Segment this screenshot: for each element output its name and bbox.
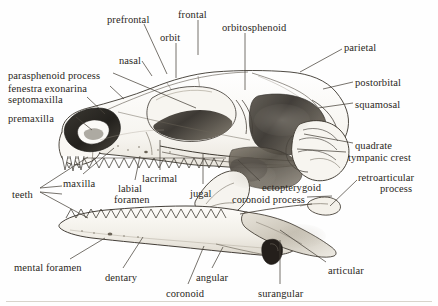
label-nasal: nasal <box>119 55 141 67</box>
labial-foramen <box>144 151 148 153</box>
label-retroarticular: retroarticular <box>358 172 414 184</box>
upper-canines <box>62 156 84 171</box>
label-articular: articular <box>328 265 364 277</box>
label-jugal: jugal <box>190 188 212 200</box>
label-coronoid-process: coronoid process <box>232 194 305 206</box>
label-fenestra-exonarina: fenestra exonarina <box>8 83 87 95</box>
label-lacrimal: lacrimal <box>142 173 177 185</box>
tone-blob-a <box>254 104 310 136</box>
mental-foramen <box>108 233 113 236</box>
label-postorbital: postorbital <box>355 77 401 89</box>
label-prefrontal: prefrontal <box>107 14 149 26</box>
dentary-stipple-b <box>93 232 95 233</box>
leader-mental <box>70 238 105 259</box>
label-dentary: dentary <box>105 272 137 284</box>
label-angular: angular <box>196 272 228 284</box>
label-squamosal: squamosal <box>355 99 400 111</box>
teeth-bracket <box>40 186 62 194</box>
maxilla-stipple-d <box>157 149 159 150</box>
leader-nasal <box>142 61 152 76</box>
maxilla-stipple-a <box>117 145 119 147</box>
label-coronoid: coronoid <box>166 288 204 300</box>
label-mental-foramen: mental foramen <box>14 262 82 274</box>
label-surangular: surangular <box>258 288 303 300</box>
label-orbitosphenoid: orbitosphenoid <box>222 22 286 34</box>
label-premaxilla: premaxilla <box>8 113 54 125</box>
page-rule <box>6 301 432 302</box>
label-tympanic-crest: tympanic crest <box>348 152 411 164</box>
label-teeth: teeth <box>12 189 33 201</box>
label-frontal: frontal <box>178 9 207 21</box>
skull-anatomy-figure: prefrontalfrontalorbitosphenoidorbitpari… <box>0 0 438 306</box>
maxilla-stipple-c <box>138 146 140 148</box>
leader-fenestra <box>110 86 124 99</box>
tone-blob-c <box>274 224 326 248</box>
retroarticular-process <box>308 197 341 215</box>
label-orbit: orbit <box>160 32 180 44</box>
label-septomaxilla: septomaxilla <box>8 94 63 106</box>
label-quadrate: quadrate <box>355 140 392 152</box>
dentary-stipple-c <box>123 235 125 236</box>
label-labial: labial <box>118 183 142 195</box>
maxilla-stipple-e <box>169 151 171 152</box>
label-parietal: parietal <box>344 42 376 54</box>
leader-parietal <box>300 49 342 72</box>
leader-teeth-lower <box>40 192 88 218</box>
dentary-stipple-a <box>81 230 83 231</box>
label-ectopterygoid: ectopterygoid <box>262 182 321 194</box>
skull-group <box>59 71 349 265</box>
label-process: process <box>380 183 412 195</box>
label-foramen: foramen <box>114 194 150 206</box>
dentary-stipple-d <box>137 236 139 237</box>
label-parasphenoid-process: parasphenoid process <box>8 70 100 82</box>
label-maxilla: maxilla <box>63 178 95 190</box>
maxilla-stipple-b <box>127 149 129 150</box>
leader-retro <box>330 180 357 206</box>
